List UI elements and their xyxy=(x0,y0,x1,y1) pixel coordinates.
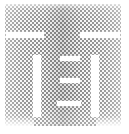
letter-bar-top xyxy=(60,56,80,61)
margin-right xyxy=(121,0,129,134)
counter-slot-right xyxy=(91,55,99,117)
margin-left xyxy=(0,0,5,134)
halftone-ink-block xyxy=(4,2,121,126)
margin-bottom xyxy=(0,126,129,134)
margin-top xyxy=(0,0,129,4)
crossbar-gap-right xyxy=(80,32,120,38)
crossbar-gap-left xyxy=(6,32,44,38)
logo-canvas xyxy=(0,0,129,134)
counter-slot-left xyxy=(33,55,41,117)
letter-bar-bottom xyxy=(57,101,81,106)
letter-bar-middle xyxy=(60,78,80,83)
